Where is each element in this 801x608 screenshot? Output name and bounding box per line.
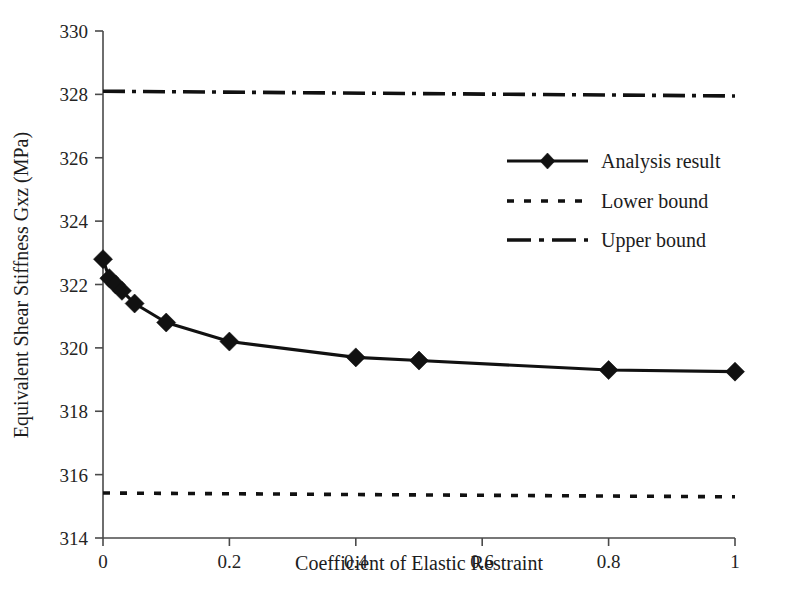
- y-tick-label: 322: [60, 275, 89, 296]
- x-tick-label: 0.8: [597, 551, 621, 572]
- x-tick-label: 0: [98, 551, 108, 572]
- x-axis-title: Coefficient of Elastic Restraint: [295, 552, 543, 574]
- y-tick-label: 314: [60, 528, 89, 549]
- y-tick-label: 316: [60, 465, 89, 486]
- x-tick-label: 1: [730, 551, 740, 572]
- legend-label-analysis-result: Analysis result: [601, 150, 721, 173]
- legend-label-upper-bound: Upper bound: [601, 229, 706, 252]
- y-tick-label: 320: [60, 338, 89, 359]
- chart-svg: 314316318320322324326328330 00.20.40.60.…: [0, 0, 801, 608]
- y-tick-label: 328: [60, 84, 89, 105]
- y-tick-label: 324: [60, 211, 89, 232]
- y-axis-tick-labels: 314316318320322324326328330: [60, 21, 89, 549]
- x-tick-label: 0.2: [218, 551, 242, 572]
- y-axis-title: Equivalent Shear Stiffness Gxz (MPa): [10, 132, 33, 438]
- chart-container: 314316318320322324326328330 00.20.40.60.…: [0, 0, 801, 608]
- legend-label-lower-bound: Lower bound: [601, 190, 708, 212]
- y-tick-label: 318: [60, 401, 89, 422]
- y-tick-label: 330: [60, 21, 89, 42]
- y-tick-label: 326: [60, 148, 89, 169]
